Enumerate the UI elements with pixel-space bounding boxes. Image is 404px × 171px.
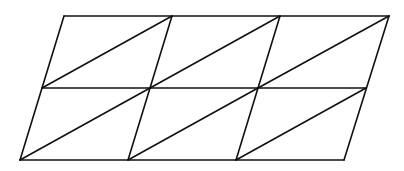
horizontal-lines	[20, 16, 389, 160]
parallelogram-triangle-grid	[0, 0, 404, 171]
